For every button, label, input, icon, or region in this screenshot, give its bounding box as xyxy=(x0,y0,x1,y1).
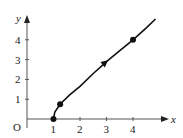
ticks xyxy=(25,40,133,121)
x-tick-label: 4 xyxy=(130,123,136,135)
marked-points xyxy=(51,37,137,122)
y-tick-label: 3 xyxy=(15,54,21,66)
data-point xyxy=(57,101,63,107)
curve-path xyxy=(54,19,156,119)
x-tick-label: 3 xyxy=(104,123,110,135)
y-axis-label: y xyxy=(15,12,21,24)
tick-labels: 12341234 xyxy=(15,34,136,135)
x-axis-arrow-icon xyxy=(161,116,169,122)
y-tick-label: 4 xyxy=(15,34,21,46)
x-tick-label: 1 xyxy=(51,123,57,135)
y-axis-arrow-icon xyxy=(24,15,30,23)
y-tick-label: 1 xyxy=(15,93,21,105)
y-tick-label: 2 xyxy=(15,73,21,85)
data-point xyxy=(51,116,57,122)
parametric-curve-chart: 12341234 x y O xyxy=(0,0,183,138)
data-point xyxy=(130,37,136,43)
origin-label: O xyxy=(13,121,21,133)
x-tick-label: 2 xyxy=(77,123,83,135)
x-axis-label: x xyxy=(170,113,176,125)
